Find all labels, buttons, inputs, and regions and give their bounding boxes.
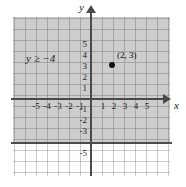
y-tick-label: 4	[73, 50, 87, 60]
y-tick-label: -2	[73, 115, 87, 125]
coordinate-plane-figure: x y -5 -4 -3 -2 -1 1 2 3 4 5 5 4 3 2 1 -…	[0, 0, 186, 187]
x-tick-label: 5	[140, 101, 154, 111]
y-axis-arrow-icon	[86, 5, 96, 13]
plotted-point-marker	[109, 62, 115, 68]
y-tick-label: 2	[73, 72, 87, 82]
inequality-region-label: y ≥ −4	[26, 52, 55, 64]
y-tick-label: -5	[73, 148, 87, 158]
y-tick-label: 5	[73, 39, 87, 49]
y-axis-label: y	[79, 1, 84, 13]
x-axis-label: x	[174, 99, 179, 111]
x-axis	[11, 98, 165, 100]
y-tick-label: -1	[73, 104, 87, 114]
x-axis-arrow-icon	[163, 94, 171, 104]
y-tick-label: 1	[73, 83, 87, 93]
plotted-point-label: (2, 3)	[117, 50, 137, 60]
y-tick-label: -3	[73, 126, 87, 136]
y-axis	[90, 12, 92, 176]
y-tick-label: 3	[73, 61, 87, 71]
